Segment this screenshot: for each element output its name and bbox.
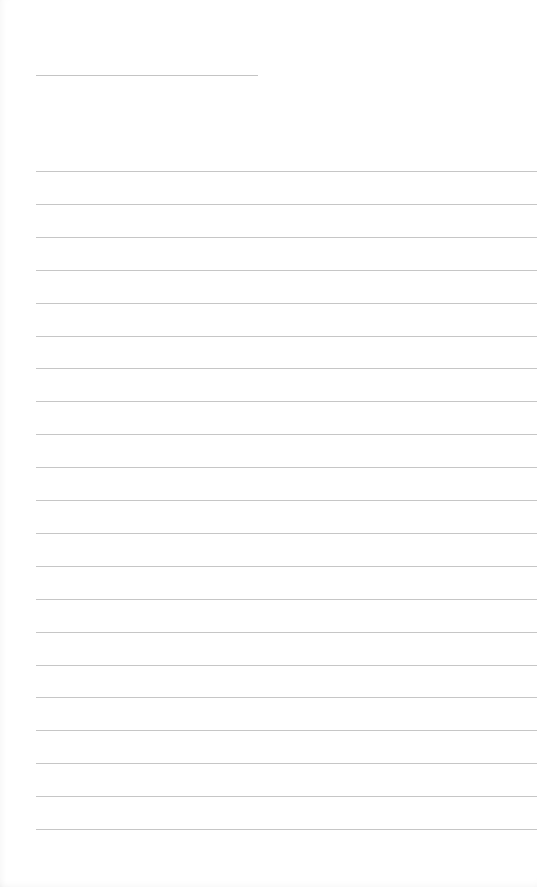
- lined-paper-page: [0, 0, 537, 887]
- ruled-line: [36, 599, 537, 600]
- ruled-line: [36, 434, 537, 435]
- ruled-line: [36, 204, 537, 205]
- ruled-line: [36, 171, 537, 172]
- ruled-line: [36, 467, 537, 468]
- ruled-line: [36, 401, 537, 402]
- ruled-line: [36, 533, 537, 534]
- ruled-line: [36, 763, 537, 764]
- ruled-line: [36, 632, 537, 633]
- title-line: [36, 75, 258, 76]
- ruled-line: [36, 336, 537, 337]
- ruled-line: [36, 303, 537, 304]
- ruled-line: [36, 697, 537, 698]
- ruled-line: [36, 730, 537, 731]
- ruled-line: [36, 368, 537, 369]
- ruled-line: [36, 665, 537, 666]
- ruled-line: [36, 829, 537, 830]
- ruled-line: [36, 237, 537, 238]
- ruled-line: [36, 566, 537, 567]
- ruled-line: [36, 796, 537, 797]
- ruled-line: [36, 270, 537, 271]
- ruled-line: [36, 500, 537, 501]
